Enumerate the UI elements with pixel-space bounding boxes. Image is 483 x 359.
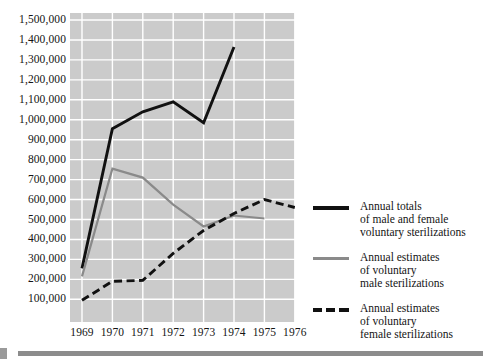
y-tick-label: 800,000 (0, 154, 66, 166)
y-tick-label: 700,000 (0, 174, 66, 186)
legend-item-male: Annual estimates of voluntary male steri… (313, 251, 481, 291)
plot-svg (70, 13, 295, 322)
legend-label-male-line1: Annual estimates (360, 251, 481, 264)
plot-area (70, 13, 295, 322)
y-tick-label: 1,300,000 (0, 54, 66, 66)
legend-label-total: Annual totals of male and female volunta… (360, 200, 481, 240)
y-axis: 1,500,0001,400,0001,300,0001,200,0001,10… (0, 0, 66, 330)
legend-label-female-line2: of voluntary (360, 315, 481, 328)
footer-rule (18, 351, 483, 356)
legend-item-total: Annual totals of male and female volunta… (313, 200, 481, 240)
legend-label-male-line3: male sterilizations (360, 277, 481, 290)
chart-legend: Annual totals of male and female volunta… (313, 200, 481, 353)
y-tick-label: 1,500,000 (0, 14, 66, 26)
y-tick-label: 600,000 (0, 194, 66, 206)
legend-swatch-solid-line-icon (313, 206, 349, 210)
x-tick-label: 1969 (70, 326, 93, 339)
legend-swatch-gray-line-icon (313, 257, 349, 260)
y-tick-label: 200,000 (0, 273, 66, 285)
legend-label-female-line3: female sterilizations (360, 328, 481, 341)
y-tick-label: 100,000 (0, 293, 66, 305)
legend-label-male: Annual estimates of voluntary male steri… (360, 251, 481, 291)
legend-item-female: Annual estimates of voluntary female ste… (313, 302, 481, 342)
x-tick-label: 1974 (222, 326, 245, 339)
legend-label-female: Annual estimates of voluntary female ste… (360, 302, 481, 342)
x-axis: 19691970197119721973197419751976 (70, 326, 310, 344)
x-tick-label: 1971 (131, 326, 154, 339)
legend-label-female-line1: Annual estimates (360, 302, 481, 315)
x-tick-label: 1975 (253, 326, 276, 339)
y-tick-label: 300,000 (0, 253, 66, 265)
x-tick-label: 1972 (161, 326, 184, 339)
legend-label-male-line2: of voluntary (360, 264, 481, 277)
legend-label-total-line1: Annual totals (360, 200, 481, 213)
y-tick-label: 1,200,000 (0, 74, 66, 86)
y-tick-label: 900,000 (0, 134, 66, 146)
x-tick-label: 1976 (283, 326, 306, 339)
x-tick-label: 1973 (192, 326, 215, 339)
x-tick-label: 1970 (101, 326, 124, 339)
y-tick-label: 1,000,000 (0, 114, 66, 126)
footer-corner-mark (0, 348, 7, 359)
legend-label-total-line3: voluntary sterilizations (360, 226, 481, 239)
y-tick-label: 1,100,000 (0, 94, 66, 106)
data-series (82, 47, 295, 300)
legend-label-total-line2: of male and female (360, 213, 481, 226)
y-tick-label: 1,400,000 (0, 34, 66, 46)
legend-swatch-dashed-line-icon (313, 308, 349, 312)
sterilizations-line-chart: 1,500,0001,400,0001,300,0001,200,0001,10… (0, 0, 483, 359)
y-tick-label: 400,000 (0, 233, 66, 245)
y-tick-label: 500,000 (0, 214, 66, 226)
